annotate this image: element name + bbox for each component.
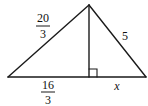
base-left-denominator: 3	[45, 93, 51, 106]
right-side-label: 5	[122, 29, 128, 43]
left-side-denominator: 3	[40, 27, 46, 41]
right-side	[89, 5, 146, 77]
left-side-label: 20 3	[36, 11, 50, 41]
right-angle-marker	[89, 69, 97, 77]
base-right-label: x	[113, 79, 120, 93]
base-left-label: 16 3	[41, 78, 55, 106]
triangle-diagram: 20 3 5 16 3 x	[0, 0, 148, 106]
left-side-numerator: 20	[37, 11, 49, 25]
base-left-numerator: 16	[42, 78, 54, 92]
